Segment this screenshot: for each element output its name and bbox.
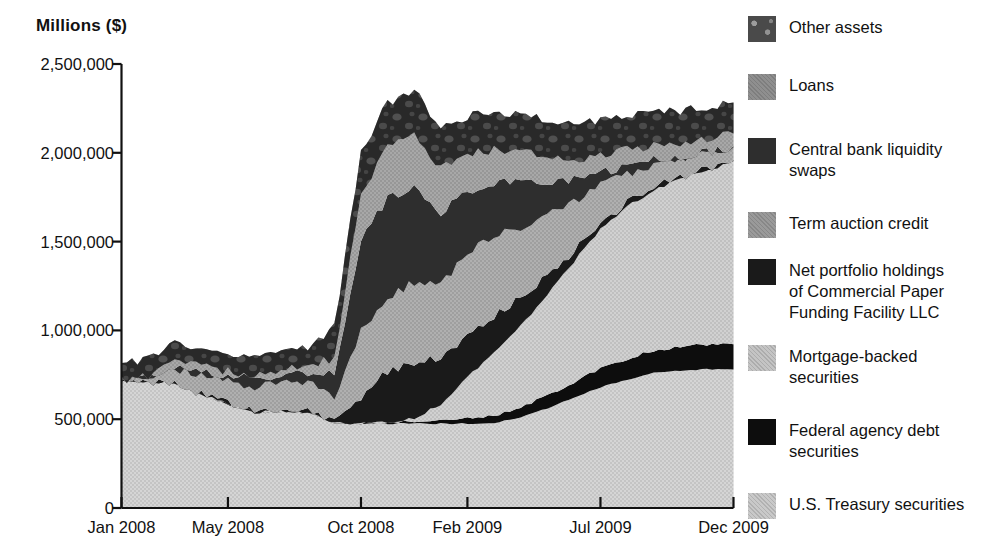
legend-swatch-icon [748, 138, 776, 164]
legend-item-label: U.S. Treasury securities [789, 493, 964, 515]
legend-item[interactable]: Net portfolio holdings of Commercial Pap… [748, 259, 944, 323]
legend-swatch-icon [748, 419, 776, 445]
legend-swatch-icon [748, 74, 776, 100]
legend-swatch-icon [748, 493, 776, 519]
legend-item[interactable]: Federal agency debt securities [748, 419, 939, 462]
legend-swatch-icon [748, 345, 776, 371]
legend-swatch-icon [748, 259, 776, 285]
legend-item[interactable]: U.S. Treasury securities [748, 493, 964, 519]
legend-item[interactable]: Other assets [748, 16, 883, 42]
legend-item-label: Net portfolio holdings of Commercial Pap… [789, 259, 944, 323]
legend-item-label: Federal agency debt securities [789, 419, 939, 462]
legend-swatch-icon [748, 212, 776, 238]
legend-item[interactable]: Loans [748, 74, 834, 100]
x-tick-label: Jan 2008 [88, 518, 156, 537]
x-tick-label: Feb 2009 [433, 518, 503, 537]
x-tick-label: May 2008 [192, 518, 264, 537]
legend-item-label: Term auction credit [789, 212, 928, 234]
chart-legend: Other assetsLoansCentral bank liquidity … [748, 0, 998, 559]
legend-item[interactable]: Central bank liquidity swaps [748, 138, 942, 181]
x-tick-label: Jul 2009 [569, 518, 631, 537]
legend-item[interactable]: Mortgage-backed securities [748, 345, 917, 388]
legend-item-label: Other assets [789, 16, 883, 38]
legend-item-label: Central bank liquidity swaps [789, 138, 942, 181]
legend-item-label: Loans [789, 74, 834, 96]
x-tick-label: Oct 2008 [327, 518, 394, 537]
legend-item[interactable]: Term auction credit [748, 212, 928, 238]
legend-item-label: Mortgage-backed securities [789, 345, 917, 388]
legend-swatch-icon [748, 16, 776, 42]
